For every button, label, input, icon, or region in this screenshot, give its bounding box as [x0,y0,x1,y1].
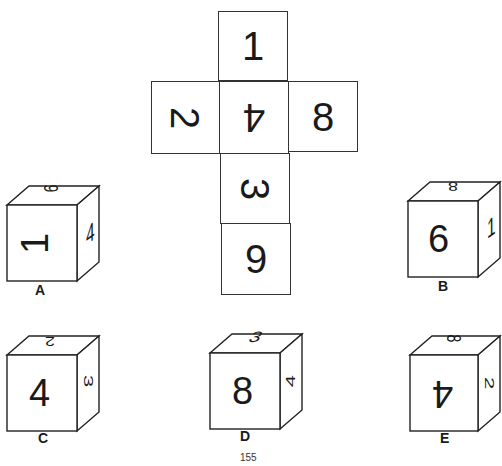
cube-front-value: 6 [428,218,449,261]
cube-side-value: 2 [481,377,497,389]
net-digit: 1 [242,26,264,66]
net-digit: 9 [245,239,267,279]
cube-front-value: 4 [29,372,50,415]
cube-top-value: 8 [448,178,458,193]
net-face-top: 1 [218,11,288,81]
option-e-cube[interactable]: 4 8 2 [410,330,502,430]
cube-side-value: 1 [487,209,496,246]
net-face-bottom: 9 [221,223,291,295]
net-face-center: 4 [219,81,289,154]
cube-front-value: 4 [432,372,453,415]
net-digit: 2 [166,106,206,128]
cube-top-value: 9 [39,185,62,193]
option-a-label: A [35,282,45,298]
option-b-label: B [438,278,448,294]
net-face-right: 8 [288,81,358,152]
option-c-cube[interactable]: 4 2 3 [5,330,105,430]
net-digit: 3 [235,177,275,199]
option-e-label: E [440,430,449,446]
page-number: 155 [240,452,257,463]
net-digit: 8 [312,97,334,137]
cube-top-value: 2 [45,333,55,348]
option-d-label: D [240,428,250,444]
cube-side-value: 3 [80,375,96,387]
net-face-left: 2 [151,81,220,154]
cube-top-value: 8 [442,335,465,343]
net-face-below: 3 [220,153,290,224]
cube-front-value: 8 [232,370,253,413]
option-b-cube[interactable]: 6 8 1 [408,176,502,276]
option-a-cube[interactable]: 1 9 4 [5,180,105,280]
cube-front-value: 1 [14,233,57,254]
cube-side-value: 4 [283,375,299,387]
cube-side-value: 4 [86,215,95,252]
option-d-cube[interactable]: 8 3 4 [208,328,308,428]
net-digit: 4 [243,98,265,138]
option-c-label: C [38,430,48,446]
